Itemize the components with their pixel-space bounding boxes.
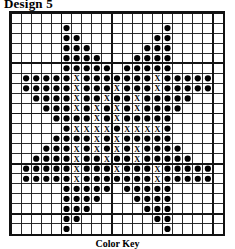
stitch-dot: [23, 176, 29, 182]
stitch-dot: [63, 65, 69, 71]
stitch-cross: X: [94, 135, 100, 144]
stitch-dot: [63, 176, 69, 182]
stitch-dot: [63, 135, 69, 141]
stitch-dot: [164, 156, 170, 162]
stitch-cross: X: [134, 94, 140, 103]
stitch-dot: [43, 95, 49, 101]
stitch-dot: [154, 135, 160, 141]
stitch-dot: [164, 146, 170, 152]
stitch-dot: [144, 105, 150, 111]
stitch-dot: [74, 196, 80, 202]
stitch-dot: [154, 105, 160, 111]
stitch-dot: [94, 156, 100, 162]
stitch-dot: [124, 176, 130, 182]
stitch-dot: [134, 115, 140, 121]
stitch-dot: [74, 65, 80, 71]
stitch-dot: [63, 186, 69, 192]
stitch-dot: [144, 65, 150, 71]
stitch-dot: [164, 216, 170, 222]
stitch-dot: [63, 196, 69, 202]
stitch-dot: [164, 176, 170, 182]
stitch-dot: [164, 196, 170, 202]
stitch-dot: [144, 85, 150, 91]
stitch-dot: [114, 125, 120, 131]
stitch-cross: X: [114, 135, 120, 144]
stitch-cross: X: [74, 84, 80, 93]
stitch-dot: [195, 85, 201, 91]
stitch-cross: X: [134, 145, 140, 154]
stitch-dot: [205, 166, 211, 172]
stitch-dot: [185, 75, 191, 81]
stitch-dot: [94, 65, 100, 71]
stitch-dot: [114, 95, 120, 101]
stitch-dot: [94, 166, 100, 172]
stitch-dot: [74, 55, 80, 61]
stitch-dot: [84, 206, 90, 212]
stitch-dot: [124, 146, 130, 152]
stitch-dot: [74, 135, 80, 141]
stitch-cross: X: [154, 175, 160, 184]
stitch-cross: X: [114, 114, 120, 123]
stitch-cross: X: [104, 155, 110, 164]
stitch-dot: [154, 216, 160, 222]
stitch-dot: [154, 115, 160, 121]
stitch-dot: [104, 176, 110, 182]
stitch-cross: X: [134, 155, 140, 164]
stitch-dot: [104, 65, 110, 71]
stitch-dot: [195, 176, 201, 182]
stitch-dot: [134, 65, 140, 71]
stitch-dot: [53, 75, 59, 81]
stitch-cross: X: [114, 84, 120, 93]
stitch-cross: X: [154, 125, 160, 134]
stitch-dot: [53, 166, 59, 172]
stitch-dot: [164, 125, 170, 131]
stitch-dot: [164, 65, 170, 71]
stitch-dot: [94, 55, 100, 61]
stitch-cross: X: [114, 165, 120, 174]
stitch-dot: [154, 45, 160, 51]
stitch-dot: [23, 75, 29, 81]
cross-stitch-chart: XXXXXXXXXXXXXXXXXXXXXXXXXXXXXXXXXXXX: [9, 11, 225, 236]
stitch-dot: [94, 95, 100, 101]
stitch-dot: [63, 206, 69, 212]
stitch-dot: [63, 156, 69, 162]
stitch-dot: [134, 75, 140, 81]
stitch-dot: [134, 85, 140, 91]
stitch-dot: [164, 166, 170, 172]
stitch-dot: [124, 166, 130, 172]
stitch-dot: [63, 146, 69, 152]
stitch-cross: X: [134, 104, 140, 113]
stitch-cross: X: [74, 175, 80, 184]
stitch-dot: [63, 45, 69, 51]
stitch-cross: X: [144, 125, 150, 134]
stitch-dot: [164, 206, 170, 212]
stitch-dot: [174, 156, 180, 162]
stitch-dot: [185, 176, 191, 182]
stitch-dot: [195, 75, 201, 81]
stitch-dot: [164, 35, 170, 41]
stitch-cross: X: [104, 94, 110, 103]
stitch-dot: [94, 75, 100, 81]
stitch-dot: [104, 105, 110, 111]
stitch-dot: [164, 45, 170, 51]
stitch-dot: [23, 85, 29, 91]
stitch-dot: [84, 115, 90, 121]
stitch-dot: [94, 186, 100, 192]
stitch-dot: [144, 156, 150, 162]
stitch-cross: X: [124, 125, 130, 134]
stitch-dot: [164, 95, 170, 101]
stitch-dot: [63, 55, 69, 61]
stitch-dot: [74, 216, 80, 222]
stitch-dot: [154, 146, 160, 152]
stitch-cross: X: [154, 74, 160, 83]
stitch-dot: [63, 125, 69, 131]
stitch-cross: X: [74, 145, 80, 154]
pattern-grid: XXXXXXXXXXXXXXXXXXXXXXXXXXXXXXXXXXXX: [11, 13, 223, 234]
stitch-cross: X: [74, 155, 80, 164]
stitch-dot: [174, 146, 180, 152]
stitch-dot: [43, 156, 49, 162]
stitch-dot: [174, 166, 180, 172]
stitch-dot: [144, 45, 150, 51]
stitch-dot: [84, 65, 90, 71]
stitch-dot: [164, 85, 170, 91]
